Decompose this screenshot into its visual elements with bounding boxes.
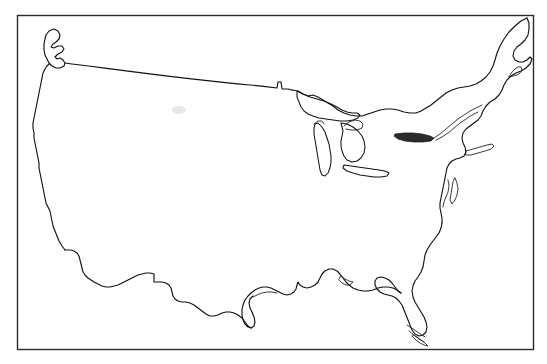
paper-smudge [172, 106, 186, 114]
us-outline-map [0, 0, 547, 364]
map-figure: Outline Map of the Contiguous United Sta… [0, 0, 547, 364]
map-background [0, 0, 547, 364]
